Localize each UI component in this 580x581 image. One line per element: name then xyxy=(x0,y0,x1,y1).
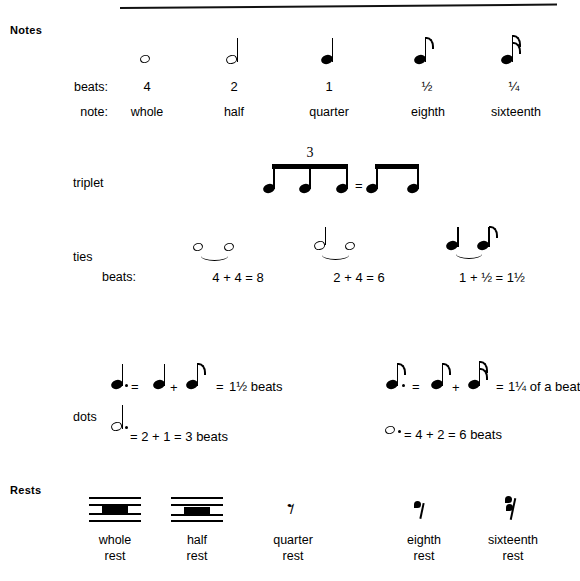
ties-beats-label: beats: xyxy=(80,270,136,284)
dots-left-1-result: 1½ beats xyxy=(229,379,283,394)
dots-right-1-equals-1: = xyxy=(412,379,420,394)
sixteenth-rest-label-line1: sixteenth xyxy=(488,533,538,547)
half-rest-label-line2: rest xyxy=(187,549,208,563)
dotted-quarter-note-glyph xyxy=(110,364,128,394)
whole-note-name: whole xyxy=(131,105,164,119)
quarter-note-beats: 1 xyxy=(325,79,332,94)
triplet-row-label: triplet xyxy=(73,176,104,190)
dots-right-1-sixteenth-note-glyph xyxy=(467,360,489,394)
top-divider-rule xyxy=(120,4,557,9)
dots-right-2-text: = 4 + 2 = 6 beats xyxy=(404,427,502,442)
triplet-equals-sign: = xyxy=(355,178,363,193)
dots-left-1-eighth-note-glyph xyxy=(185,362,207,394)
dots-right-1-equals-2: = xyxy=(496,379,504,394)
dots-right-1-plus: + xyxy=(452,380,460,395)
eighth-note-glyph xyxy=(413,36,435,68)
half-note-glyph xyxy=(225,38,241,68)
rests-section-header: Rests xyxy=(10,484,41,496)
triplet-three-eighth-notes-group xyxy=(271,164,349,196)
dots-left-1-equals-1: = xyxy=(131,379,139,394)
eighth-note-name: eighth xyxy=(411,105,445,119)
note-row-label: note: xyxy=(52,105,108,119)
dots-left-1-quarter-note-glyph xyxy=(152,364,168,394)
dots-right-1-eighth-note-glyph xyxy=(430,362,452,394)
quarter-note-name: quarter xyxy=(309,105,349,119)
whole-note-glyph xyxy=(139,52,153,66)
sixteenth-note-name: sixteenth xyxy=(491,105,541,119)
dots-row-label: dots xyxy=(73,410,97,424)
dots-left-2-text: = 2 + 1 = 3 beats xyxy=(130,429,228,444)
tie-equation-1: 4 + 4 = 8 xyxy=(212,270,263,285)
tie-half-whole-glyph xyxy=(314,227,360,269)
half-rest-glyph xyxy=(171,497,223,525)
quarter-rest-glyph: 𝄾 xyxy=(287,494,295,524)
quarter-rest-label-line2: rest xyxy=(283,549,304,563)
half-note-name: half xyxy=(224,105,244,119)
dotted-half-note-glyph xyxy=(110,405,128,437)
ties-row-label: ties xyxy=(73,250,92,264)
sixteenth-note-glyph xyxy=(500,34,522,68)
sixteenth-rest-label-line2: rest xyxy=(503,549,524,563)
tie-whole-whole-glyph xyxy=(193,243,239,269)
eighth-note-beats: ½ xyxy=(422,79,433,94)
whole-rest-glyph xyxy=(89,497,141,525)
tie-equation-2: 2 + 4 = 6 xyxy=(333,270,384,285)
dots-right-1-result: 1¼ of a beat xyxy=(508,379,580,394)
notes-section-header: Notes xyxy=(10,24,42,36)
eighth-rest-glyph xyxy=(412,500,428,530)
eighth-rest-label-line1: eighth xyxy=(407,533,441,547)
dots-left-1-equals-2: = xyxy=(216,379,224,394)
sixteenth-note-beats: ¼ xyxy=(509,79,520,94)
dots-left-1-plus: + xyxy=(170,380,178,395)
triplet-number: 3 xyxy=(307,145,314,161)
dotted-eighth-note-glyph xyxy=(385,362,409,394)
beats-row-label: beats: xyxy=(52,80,108,94)
whole-rest-label-line1: whole xyxy=(99,533,132,547)
tie-equation-3: 1 + ½ = 1½ xyxy=(459,270,525,285)
dotted-whole-note-glyph xyxy=(385,423,403,439)
triplet-two-eighth-notes-group xyxy=(374,164,420,196)
quarter-rest-label-line1: quarter xyxy=(273,533,313,547)
sixteenth-rest-glyph xyxy=(503,496,519,526)
eighth-rest-label-line2: rest xyxy=(414,549,435,563)
tie-quarter-eighth-glyph xyxy=(446,227,496,269)
whole-rest-label-line2: rest xyxy=(105,549,126,563)
quarter-note-glyph xyxy=(320,38,336,68)
whole-note-beats: 4 xyxy=(143,79,150,94)
half-rest-label-line1: half xyxy=(187,533,207,547)
half-note-beats: 2 xyxy=(230,79,237,94)
